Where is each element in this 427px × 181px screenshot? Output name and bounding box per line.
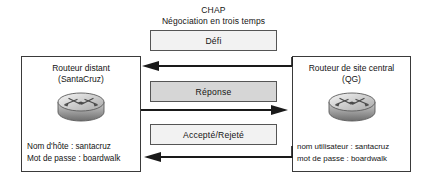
- remote-router-box: Routeur distant (SantaCruz): [21, 56, 141, 172]
- remote-router-title: Routeur distant (SantaCruz): [24, 63, 138, 85]
- diagram-title-block: CHAP Négociation en trois temps: [0, 5, 427, 27]
- remote-router-name: Routeur distant: [52, 63, 110, 73]
- central-router-qualifier: (QG): [295, 74, 408, 85]
- central-router-username: nom utilisateur : santacruz: [297, 141, 408, 153]
- message-label-challenge: Défi: [205, 36, 221, 46]
- arrow-accept-reject: [144, 146, 292, 162]
- remote-router-qualifier: (SantaCruz): [24, 74, 138, 85]
- remote-router-credentials: Nom d'hôte : santacruz Mot de passe : bo…: [27, 141, 137, 164]
- arrow-challenge: [142, 57, 292, 71]
- remote-router-password: Mot de passe : boardwalk: [27, 153, 137, 165]
- router-icon: [327, 89, 377, 125]
- message-box-challenge: Défi: [150, 30, 277, 51]
- diagram-subtitle: Négociation en trois temps: [0, 16, 427, 27]
- message-box-response: Réponse: [150, 81, 277, 102]
- central-router-password: mot de passe : boardwalk: [297, 153, 408, 165]
- message-label-accept-reject: Accepté/Rejeté: [183, 130, 244, 140]
- remote-router-hostname: Nom d'hôte : santacruz: [27, 141, 137, 153]
- central-router-name: Routeur de site central: [309, 63, 395, 73]
- diagram-title: CHAP: [0, 5, 427, 16]
- message-box-accept-reject: Accepté/Rejeté: [150, 124, 277, 145]
- chap-three-way-handshake-diagram: CHAP Négociation en trois temps Routeur …: [0, 0, 427, 181]
- central-router-title: Routeur de site central (QG): [295, 63, 408, 85]
- router-icon: [56, 89, 106, 125]
- central-router-box: Routeur de site central (QG): [292, 56, 411, 172]
- arrow-response: [141, 105, 288, 115]
- message-label-response: Réponse: [196, 87, 232, 97]
- central-router-credentials: nom utilisateur : santacruz mot de passe…: [297, 141, 408, 164]
